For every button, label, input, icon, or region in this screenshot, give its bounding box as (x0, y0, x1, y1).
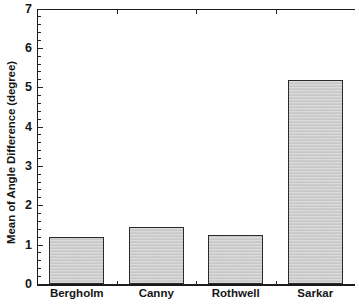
y-axis-tick (38, 48, 43, 49)
x-axis-category-label: Rothwell (196, 288, 276, 300)
x-axis-top-tick (276, 10, 277, 14)
y-axis-tick (38, 205, 43, 206)
y-axis-minor-tick (38, 142, 41, 143)
bar (288, 80, 343, 285)
y-axis-tick-labels: 01234567 (14, 0, 32, 305)
y-axis-minor-tick (38, 24, 41, 25)
y-axis-tick (38, 87, 43, 88)
y-axis-minor-tick (38, 260, 41, 261)
y-axis-tick-label: 1 (18, 239, 32, 252)
y-axis-minor-tick (38, 40, 41, 41)
y-axis-minor-tick (38, 252, 41, 253)
y-axis-tick-label: 2 (18, 199, 32, 212)
x-axis-category-label: Canny (117, 288, 197, 300)
y-axis-minor-tick (38, 189, 41, 190)
y-axis-minor-tick (38, 268, 41, 269)
y-axis-minor-tick (38, 111, 41, 112)
x-axis-top-tick (117, 10, 118, 14)
y-axis-minor-tick (38, 237, 41, 238)
y-axis-tick (38, 9, 43, 10)
x-axis-bottom-tick (276, 281, 277, 285)
y-axis-minor-tick (38, 134, 41, 135)
bar (49, 237, 104, 284)
y-axis-tick (38, 284, 43, 285)
bar (208, 235, 263, 284)
x-axis-top-tick (196, 10, 197, 14)
y-axis-minor-tick (38, 213, 41, 214)
y-axis-tick (38, 166, 43, 167)
y-axis-tick (38, 127, 43, 128)
y-axis-minor-tick (38, 56, 41, 57)
y-axis-tick-label: 0 (18, 278, 32, 291)
y-axis-minor-tick (38, 16, 41, 17)
y-axis-tick-label: 6 (18, 42, 32, 55)
y-axis-minor-tick (38, 182, 41, 183)
plot-area (37, 9, 355, 286)
y-axis-minor-tick (38, 174, 41, 175)
y-axis-minor-tick (38, 229, 41, 230)
y-axis-minor-tick (38, 276, 41, 277)
y-axis-minor-tick (38, 119, 41, 120)
y-axis-tick (38, 245, 43, 246)
y-axis-tick-label: 5 (18, 81, 32, 94)
y-axis-minor-tick (38, 64, 41, 65)
bar (129, 227, 184, 284)
y-axis-tick-label: 7 (18, 3, 32, 16)
y-axis-minor-tick (38, 79, 41, 80)
x-axis-bottom-tick (117, 281, 118, 285)
y-axis-minor-tick (38, 158, 41, 159)
y-axis-minor-tick (38, 221, 41, 222)
y-axis-tick-label: 3 (18, 160, 32, 173)
x-axis-category-label: Bergholm (37, 288, 117, 300)
bar-chart: Mean of Angle Difference (degree) 012345… (0, 0, 359, 305)
y-axis-minor-tick (38, 32, 41, 33)
y-axis-minor-tick (38, 95, 41, 96)
y-axis-minor-tick (38, 197, 41, 198)
x-axis-category-label: Sarkar (276, 288, 356, 300)
y-axis-tick-label: 4 (18, 121, 32, 134)
y-axis-minor-tick (38, 103, 41, 104)
y-axis-minor-tick (38, 150, 41, 151)
x-axis-bottom-tick (196, 281, 197, 285)
y-axis-minor-tick (38, 71, 41, 72)
